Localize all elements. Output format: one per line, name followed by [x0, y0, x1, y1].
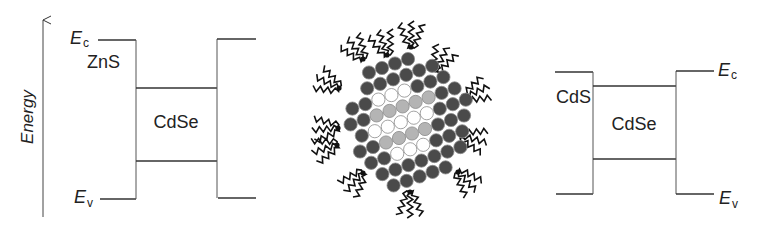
shell-atom	[443, 129, 456, 142]
ligand-anchor-icon	[360, 56, 365, 61]
shell-atom	[359, 98, 372, 111]
left-shell-label: ZnS	[87, 52, 120, 72]
ligand-anchor-icon	[408, 44, 413, 49]
core-atom	[392, 131, 405, 144]
shell-atom	[428, 150, 441, 163]
shell-atom	[444, 113, 457, 126]
ligand-chain	[347, 37, 363, 60]
core-atom	[418, 122, 431, 135]
shell-atom	[431, 118, 444, 131]
ligand-anchor-icon	[335, 125, 340, 130]
shell-atom	[387, 73, 400, 86]
shell-atom	[448, 82, 461, 95]
shell-atom	[353, 145, 366, 158]
ligand-chain	[343, 173, 363, 191]
left-core-label: CdSe	[153, 112, 198, 132]
shell-atom	[454, 141, 467, 154]
shell-atom	[437, 71, 450, 84]
ligand-anchor-icon	[384, 52, 389, 57]
shell-atom	[376, 168, 389, 181]
right-core-label: CdSe	[611, 114, 656, 134]
ligand	[369, 29, 394, 58]
ligand	[454, 169, 481, 198]
core-atom	[379, 136, 392, 149]
ligand-anchor-icon	[360, 170, 365, 175]
ligand	[396, 189, 423, 218]
shell-atom	[361, 82, 374, 95]
shell-atom	[441, 145, 454, 158]
right-ev-label: Ev	[719, 188, 738, 211]
ligand-anchor-icon	[334, 142, 339, 147]
shell-atom	[426, 59, 439, 72]
core-atom	[394, 116, 407, 129]
core-atom	[391, 147, 404, 160]
shell-atom	[362, 66, 375, 79]
core-shell-nanoparticle	[311, 21, 491, 218]
core-atom	[407, 111, 420, 124]
ligand	[311, 138, 339, 163]
shell-atom	[446, 98, 459, 111]
shell-atom	[411, 80, 424, 93]
shell-atom	[413, 64, 426, 77]
shell-atom	[424, 75, 437, 88]
shell-atom	[457, 109, 470, 122]
ligand-chain	[313, 86, 339, 94]
ligand	[337, 169, 366, 197]
right-band-diagram: CdS CdSe Ec Ev	[555, 60, 738, 211]
shell-atom	[435, 86, 448, 99]
shell-atom	[366, 140, 379, 153]
energy-axis-label: Energy	[18, 89, 37, 144]
ligand-chain	[398, 22, 411, 48]
core-atom	[417, 138, 430, 151]
ligand-chain	[410, 191, 423, 217]
shell-atom	[355, 129, 368, 142]
shell-atom	[415, 154, 428, 167]
ligand-anchor-icon	[407, 189, 412, 194]
ligand	[341, 32, 368, 61]
shell-atom	[344, 118, 357, 131]
core-atom	[370, 109, 383, 122]
shell-atom	[401, 52, 414, 65]
ligand	[312, 116, 341, 143]
shell-atom	[387, 179, 400, 192]
left-ec-label: Ec	[70, 28, 89, 50]
shell-atom	[426, 165, 439, 178]
diagram-canvas: Energy Ec ZnS CdSe Ev CdS CdSe Ec Ev	[0, 0, 762, 229]
shell-atom	[402, 159, 415, 172]
right-shell-label: CdS	[556, 87, 591, 107]
ligand-anchor-icon	[336, 85, 341, 90]
core-atom	[383, 104, 396, 117]
shell-atom	[365, 156, 378, 169]
core-atom	[404, 143, 417, 156]
ligand-chain	[324, 65, 342, 88]
ligand-chain	[311, 143, 337, 154]
core-atom	[422, 91, 435, 104]
shell-atom	[378, 152, 391, 165]
shell-atom	[389, 163, 402, 176]
ligand	[313, 65, 342, 93]
shell-atom	[439, 161, 452, 174]
core-atom	[409, 95, 422, 108]
shell-atom	[413, 170, 426, 183]
core-atom	[385, 89, 398, 102]
shell-atom	[430, 134, 443, 147]
ligand	[398, 21, 425, 50]
shell-atom	[433, 102, 446, 115]
left-band-diagram: Ec ZnS CdSe Ev	[70, 28, 256, 210]
core-atom	[381, 120, 394, 133]
core-atom	[405, 127, 418, 140]
core-atom	[368, 125, 381, 138]
shell-atom	[374, 77, 387, 90]
shell-atom	[346, 102, 359, 115]
shell-atom	[375, 61, 388, 74]
core-atom	[372, 93, 385, 106]
ligand-chain	[436, 55, 459, 73]
shell-atom	[357, 113, 370, 126]
left-ev-label: Ev	[74, 187, 93, 210]
core-atom	[396, 100, 409, 113]
shell-atom	[459, 93, 472, 106]
core-atom	[420, 107, 433, 120]
shell-atom	[388, 57, 401, 70]
shell-atom	[456, 125, 469, 138]
energy-axis: Energy	[18, 20, 43, 217]
